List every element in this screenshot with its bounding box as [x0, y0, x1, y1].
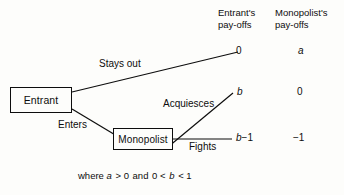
payoff-entrant-stays-out: 0	[236, 45, 242, 56]
column-header-monopolist-line2: pay-offs	[275, 19, 328, 31]
payoff-entrant-fights-offset: −1	[242, 132, 253, 143]
column-header-entrant-line1: Entrant's	[218, 7, 255, 19]
branch-label-stays-out: Stays out	[99, 58, 141, 69]
game-tree-diagram: Entrant Monopolist Stays out Enters Acqu…	[0, 0, 344, 195]
caption-conjunction: and	[130, 170, 151, 181]
caption-a-relation: > 0	[112, 170, 130, 181]
payoff-entrant-acquiesces: b	[237, 86, 243, 97]
branch-line-stays-out	[72, 52, 238, 92]
node-entrant: Entrant	[10, 87, 72, 113]
caption-parameter-conditions: where a > 0 and 0 < b < 1	[78, 170, 193, 181]
branch-label-acquiesces: Acquiesces	[163, 98, 214, 109]
payoff-entrant-stays-out-value: 0	[236, 45, 242, 56]
column-header-entrant-payoffs: Entrant's pay-offs	[218, 7, 255, 30]
column-header-monopolist-line1: Monopolist's	[275, 7, 328, 19]
caption-variable-b: b	[169, 170, 174, 181]
caption-upper-bound: < 1	[175, 170, 193, 181]
payoff-entrant-fights: b−1	[236, 132, 253, 143]
payoff-monopolist-acquiesces: 0	[297, 86, 303, 97]
node-monopolist: Monopolist	[113, 128, 173, 150]
column-header-monopolist-payoffs: Monopolist's pay-offs	[275, 7, 328, 30]
caption-prefix: where	[78, 170, 107, 181]
caption-lower-bound: 0 <	[151, 170, 169, 181]
payoff-entrant-acquiesces-value: b	[237, 86, 243, 97]
payoff-monopolist-stays-out-value: a	[298, 45, 304, 56]
column-header-entrant-line2: pay-offs	[218, 19, 255, 31]
payoff-monopolist-fights-value: −1	[293, 132, 304, 143]
node-entrant-label: Entrant	[24, 94, 59, 106]
node-monopolist-label: Monopolist	[118, 134, 167, 145]
payoff-monopolist-fights: −1	[293, 132, 304, 143]
payoff-monopolist-stays-out: a	[298, 45, 304, 56]
branch-label-fights: Fights	[189, 141, 216, 152]
branch-label-enters: Enters	[58, 119, 87, 130]
payoff-monopolist-acquiesces-value: 0	[297, 86, 303, 97]
